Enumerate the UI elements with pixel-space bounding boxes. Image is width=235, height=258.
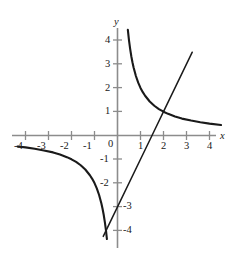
x-tick-label--1: -1 [83,141,92,152]
function-graph-figure: -4 -3 -2 -1 0 1 2 3 4 4 3 2 1 -1 -2 -3 -… [0,0,235,258]
y-tick-label-3: 3 [105,59,110,70]
y-tick-label-1: 1 [105,106,110,117]
y-axis-label: y [114,17,119,28]
y-tick-label--2: -2 [100,178,109,189]
plot-canvas [0,0,235,258]
x-tick-label--4: -4 [14,141,23,152]
x-axis-label: x [220,131,225,142]
y-tick-label--4: -4 [123,225,132,236]
x-tick-label--2: -2 [60,141,69,152]
y-tick-label--1: -1 [100,154,109,165]
x-tick-label-3: 3 [184,141,189,152]
x-tick-label-4: 4 [207,141,212,152]
y-tick-label--3: -3 [123,201,132,212]
hyperbola-left-branch-curve [17,146,106,239]
x-tick-label-0: 0 [108,139,113,150]
x-tick-label-2: 2 [161,141,166,152]
hyperbola-right-branch-curve [128,30,221,125]
y-tick-label-4: 4 [105,35,110,46]
x-tick-label-1: 1 [138,141,143,152]
x-tick-label--3: -3 [37,141,46,152]
straight-line-curve [103,52,192,236]
y-tick-label-2: 2 [105,83,110,94]
